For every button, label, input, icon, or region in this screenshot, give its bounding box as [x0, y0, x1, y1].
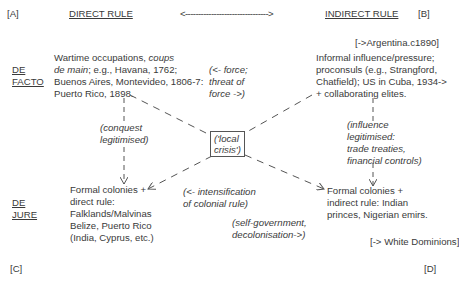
- indirect-rule-heading: INDIRECT RULE: [325, 8, 398, 20]
- corner-label-c: [C]: [10, 263, 22, 275]
- quadrant-de-jure-indirect: Formal colonies + indirect rule: Indian …: [327, 185, 428, 221]
- dashed-line-topright-crisis: [245, 95, 312, 133]
- conquest-annotation: (conquest legitimised): [100, 122, 149, 146]
- quadrant-de-facto-direct: Wartime occupations, coups de main; e.g.…: [54, 52, 203, 100]
- corner-label-b: [B]: [418, 8, 430, 20]
- dashed-arrow-crisis-bottomright: [245, 155, 324, 189]
- quadrant-de-facto-indirect: Informal influence/pressure; proconsuls …: [316, 52, 447, 100]
- de-facto-label-1: DE: [12, 64, 25, 76]
- intensification-annotation: (<- intensification of colonial rule): [183, 186, 256, 210]
- argentina-note: [->Argentina.c1890]: [355, 37, 439, 49]
- de-jure-label-2: JURE: [12, 209, 37, 221]
- influence-annotation: (influence legitimised: trade treaties, …: [347, 119, 422, 167]
- white-dominions-note: [-> White Dominions]: [370, 236, 459, 248]
- bidirectional-arrow: <-------------------------------->: [180, 8, 273, 20]
- de-facto-label-2: FACTO: [12, 76, 44, 88]
- self-government-annotation: (self-government, decolonisation->): [232, 217, 307, 241]
- direct-rule-heading: DIRECT RULE: [69, 8, 133, 20]
- local-crisis-box: ('local crisis'): [210, 131, 245, 157]
- dashed-arrow-crisis-bottomleft: [148, 156, 212, 189]
- corner-label-a: [A]: [7, 8, 19, 20]
- de-jure-label-1: DE: [12, 197, 25, 209]
- force-annotation: (<- force; threat of force ->): [209, 64, 248, 100]
- quadrant-de-jure-direct: Formal colonies + direct rule: Falklands…: [70, 184, 154, 244]
- corner-label-d: [D]: [424, 263, 436, 275]
